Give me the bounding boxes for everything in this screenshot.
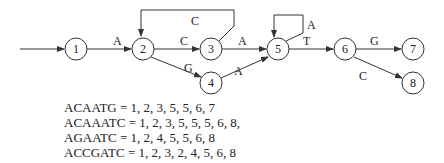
edge-4-5 — [221, 57, 268, 78]
svg-text:4: 4 — [208, 76, 214, 90]
node-6: 6 — [334, 38, 356, 60]
node-3: 3 — [200, 38, 222, 60]
svg-text:5: 5 — [275, 42, 281, 56]
svg-text:7: 7 — [410, 42, 416, 56]
edge-label-5-6: T — [303, 34, 311, 48]
sequence-list: ACAATG = 1, 2, 3, 5, 5, 6, 7 ACAAATC = 1… — [64, 100, 240, 160]
node-2: 2 — [132, 38, 154, 60]
edge-label-3-2: C — [191, 14, 199, 28]
svg-text:6: 6 — [342, 42, 348, 56]
edge-label-3-5: A — [238, 34, 247, 48]
svg-text:1: 1 — [73, 42, 79, 56]
sequence-line: AGAATC = 1, 2, 4, 5, 5, 6, 8 — [64, 130, 240, 145]
edge-2-4 — [151, 57, 201, 77]
node-8: 8 — [402, 72, 424, 94]
svg-text:2: 2 — [140, 42, 146, 56]
edge-label-5-5: A — [307, 18, 316, 32]
edge-label-6-8: C — [359, 69, 367, 83]
sequence-line: ACAAATC = 1, 2, 3, 5, 5, 5, 6, 8, — [64, 115, 240, 130]
svg-text:3: 3 — [208, 42, 214, 56]
edge-label-2-4: G — [184, 61, 193, 75]
node-4: 4 — [200, 72, 222, 94]
sequence-line: ACCGATC = 1, 2, 3, 2, 4, 5, 6, 8 — [64, 145, 240, 160]
edge-label-6-7: G — [370, 34, 379, 48]
node-5: 5 — [267, 38, 289, 60]
sequence-line: ACAATG = 1, 2, 3, 5, 5, 6, 7 — [64, 100, 240, 115]
edge-label-2-3: C — [180, 34, 188, 48]
edge-label-4-5: A — [234, 64, 243, 78]
edge-label-1-2: A — [113, 34, 122, 48]
node-7: 7 — [402, 38, 424, 60]
edge-5-5 — [274, 15, 303, 41]
svg-text:8: 8 — [410, 76, 416, 90]
node-1: 1 — [65, 38, 87, 60]
